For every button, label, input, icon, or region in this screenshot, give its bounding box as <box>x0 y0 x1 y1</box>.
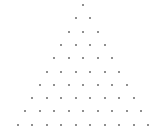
dot <box>97 31 99 33</box>
dot <box>53 110 55 112</box>
dot <box>118 71 120 73</box>
dot <box>82 84 84 86</box>
dot <box>104 124 106 126</box>
dot <box>31 97 33 99</box>
dot <box>75 71 77 73</box>
dot <box>111 57 113 59</box>
dot <box>68 110 70 112</box>
dot <box>75 124 77 126</box>
dot <box>104 44 106 46</box>
dot <box>75 17 77 19</box>
triangular-dot-diagram <box>0 0 159 138</box>
dot <box>39 84 41 86</box>
dot <box>31 124 33 126</box>
dot <box>89 124 91 126</box>
dot <box>118 97 120 99</box>
dot <box>46 124 48 126</box>
dot <box>53 57 55 59</box>
dot <box>46 71 48 73</box>
dot <box>89 17 91 19</box>
dot <box>147 124 149 126</box>
dot <box>60 124 62 126</box>
dot <box>97 57 99 59</box>
dot <box>89 97 91 99</box>
dot <box>104 71 106 73</box>
dot <box>68 84 70 86</box>
dot <box>17 124 19 126</box>
dot <box>97 84 99 86</box>
dot <box>104 97 106 99</box>
dot <box>140 110 142 112</box>
dot <box>60 71 62 73</box>
dot <box>111 84 113 86</box>
dot <box>126 110 128 112</box>
dot <box>82 31 84 33</box>
dot <box>60 44 62 46</box>
dot <box>53 84 55 86</box>
dot <box>82 4 84 6</box>
dot <box>89 44 91 46</box>
dot <box>68 31 70 33</box>
dot <box>89 71 91 73</box>
dot <box>60 97 62 99</box>
dot <box>46 97 48 99</box>
dot <box>75 97 77 99</box>
dot <box>82 57 84 59</box>
dot <box>68 57 70 59</box>
dot <box>133 124 135 126</box>
dot <box>82 110 84 112</box>
dot <box>24 110 26 112</box>
dot <box>39 110 41 112</box>
dot <box>133 97 135 99</box>
dot <box>97 110 99 112</box>
dot <box>126 84 128 86</box>
dot <box>75 44 77 46</box>
dot <box>111 110 113 112</box>
dot <box>118 124 120 126</box>
